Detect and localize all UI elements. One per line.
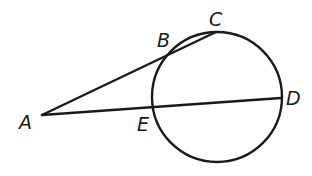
circle xyxy=(152,32,282,162)
geometry-diagram: A B C D E xyxy=(0,0,312,176)
label-e: E xyxy=(137,113,149,135)
secant-ad xyxy=(42,98,281,115)
label-a: A xyxy=(17,111,32,133)
secant-ac xyxy=(42,32,216,115)
label-b: B xyxy=(157,29,170,51)
label-d: D xyxy=(286,87,301,109)
label-c: C xyxy=(209,8,223,30)
